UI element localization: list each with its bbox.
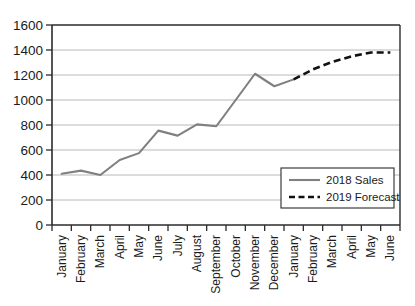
y-tick-label-1600: 1600 xyxy=(13,18,43,33)
x-tick-label-may-16: May xyxy=(364,235,378,258)
line-chart: 1600 1400 1200 1000 800 600 400 200 0 Ja… xyxy=(0,0,415,306)
series-line-2018-sales xyxy=(62,74,294,175)
x-tick-label-august-7: August xyxy=(190,234,204,272)
x-tick-label-march-2: March xyxy=(93,235,107,268)
x-tick-label-may-4: May xyxy=(132,235,146,258)
legend-label-2019-forecast: 2019 Forecast xyxy=(326,191,400,203)
x-tick-label-september-8: September xyxy=(209,235,223,294)
x-tick-label-january-12: January xyxy=(287,235,301,278)
x-tick-label-november-10: November xyxy=(248,235,262,290)
x-tick-label-february-13: February xyxy=(306,235,320,283)
legend-label-2018-sales: 2018 Sales xyxy=(326,174,384,186)
x-tick-label-march-14: March xyxy=(325,235,339,268)
chart-canvas: 1600 1400 1200 1000 800 600 400 200 0 Ja… xyxy=(0,0,415,306)
x-tick-label-october-9: October xyxy=(229,235,243,278)
y-axis-labels: 1600 1400 1200 1000 800 600 400 200 0 xyxy=(13,18,43,233)
x-axis-labels: JanuaryFebruaryMarchAprilMayJuneJulyAugu… xyxy=(55,234,398,293)
y-tick-label-800: 800 xyxy=(20,118,43,133)
y-tick-label-400: 400 xyxy=(20,168,43,183)
y-tick-label-1200: 1200 xyxy=(13,68,43,83)
x-tick-label-june-17: June xyxy=(383,235,397,261)
y-tick-label-200: 200 xyxy=(20,193,43,208)
x-tick-label-june-5: June xyxy=(151,235,165,261)
x-tick-marks xyxy=(52,225,400,231)
y-tick-label-1400: 1400 xyxy=(13,43,43,58)
x-tick-label-april-3: April xyxy=(113,235,127,259)
y-tick-label-1000: 1000 xyxy=(13,93,43,108)
data-series xyxy=(62,53,391,176)
y-tick-marks xyxy=(46,25,52,225)
x-tick-label-december-11: December xyxy=(267,235,281,290)
x-tick-label-july-6: July xyxy=(171,235,185,256)
y-tick-label-600: 600 xyxy=(20,143,43,158)
x-tick-label-april-15: April xyxy=(345,235,359,259)
x-tick-label-january-0: January xyxy=(55,235,69,278)
chart-legend: 2018 Sales 2019 Forecast xyxy=(281,168,400,208)
y-tick-label-0: 0 xyxy=(35,218,43,233)
x-tick-label-february-1: February xyxy=(74,235,88,283)
